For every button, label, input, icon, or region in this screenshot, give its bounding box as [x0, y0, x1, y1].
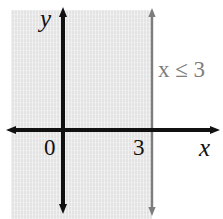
y-axis-label: y [40, 6, 51, 31]
inequality-graph-figure: y x 0 3 x ≤ 3 [0, 0, 223, 219]
x-axis-label: x [199, 135, 210, 160]
origin-label: 0 [44, 136, 56, 159]
inequality-label: x ≤ 3 [158, 58, 205, 81]
x-tick-label-3: 3 [133, 136, 145, 159]
axes-and-boundary-line [0, 0, 223, 219]
